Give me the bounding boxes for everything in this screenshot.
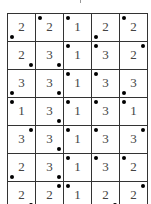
- grid-row: 23132: [8, 42, 148, 70]
- cell-number: 3: [92, 76, 119, 90]
- cell-number: 2: [8, 20, 35, 34]
- corner-dot-icon: [57, 63, 61, 67]
- corner-dot-icon: [10, 175, 14, 179]
- cell-number: 1: [64, 20, 91, 34]
- grid-row: 33133: [8, 70, 148, 98]
- grid-cell: 2: [36, 182, 64, 204]
- grid-cell: 2: [8, 154, 36, 182]
- corner-dot-icon: [113, 203, 117, 204]
- corner-dot-icon: [66, 44, 70, 48]
- grid-cell: 2: [92, 182, 120, 204]
- grid-cell: 3: [36, 42, 64, 70]
- top-tick-mark: [80, 0, 81, 3]
- corner-dot-icon: [141, 184, 145, 188]
- corner-dot-icon: [66, 184, 70, 188]
- cell-number: 3: [36, 104, 63, 118]
- corner-dot-icon: [94, 44, 98, 48]
- cell-number: 1: [64, 160, 91, 174]
- grid-cell: 1: [64, 70, 92, 98]
- cell-number: 1: [64, 188, 91, 202]
- grid-cell: 2: [8, 14, 36, 42]
- grid-cell: 3: [120, 126, 148, 154]
- grid-cell: 1: [64, 42, 92, 70]
- grid-cell: 3: [36, 154, 64, 182]
- corner-dot-icon: [141, 128, 145, 132]
- grid-cell: 2: [8, 182, 36, 204]
- corner-dot-icon: [66, 156, 70, 160]
- grid-cell: 3: [92, 154, 120, 182]
- cell-number: 2: [120, 160, 147, 174]
- cell-number: 3: [36, 48, 63, 62]
- cell-number: 2: [120, 48, 147, 62]
- grid-cell: 3: [92, 42, 120, 70]
- grid-cell: 1: [120, 98, 148, 126]
- grid-cell: 1: [64, 126, 92, 154]
- grid-cell: 3: [92, 98, 120, 126]
- grid-cell: 3: [36, 98, 64, 126]
- grid-cell: 3: [8, 70, 36, 98]
- corner-dot-icon: [66, 16, 70, 20]
- corner-dot-icon: [94, 156, 98, 160]
- grid-cell: 1: [8, 98, 36, 126]
- corner-dot-icon: [94, 100, 98, 104]
- corner-dot-icon: [57, 119, 61, 123]
- cell-number: 1: [8, 104, 35, 118]
- corner-dot-icon: [141, 44, 145, 48]
- cell-number: 3: [36, 76, 63, 90]
- cell-number: 1: [64, 48, 91, 62]
- cell-number: 2: [36, 188, 63, 202]
- cell-number: 3: [120, 132, 147, 146]
- cell-number: 2: [8, 160, 35, 174]
- grid-cell: 2: [36, 14, 64, 42]
- corner-dot-icon: [94, 72, 98, 76]
- corner-dot-icon: [29, 203, 33, 204]
- cell-number: 2: [36, 20, 63, 34]
- cell-number: 2: [120, 20, 147, 34]
- cell-number: 2: [92, 188, 119, 202]
- grid-cell: 3: [8, 126, 36, 154]
- grid-cell: 2: [120, 42, 148, 70]
- corner-dot-icon: [38, 16, 42, 20]
- cell-number: 3: [92, 160, 119, 174]
- corner-dot-icon: [66, 72, 70, 76]
- cell-number: 3: [8, 76, 35, 90]
- corner-dot-icon: [10, 100, 14, 104]
- cell-number: 2: [8, 48, 35, 62]
- corner-dot-icon: [57, 147, 61, 151]
- grid-cell: 2: [120, 14, 148, 42]
- corner-dot-icon: [122, 100, 126, 104]
- cell-number: 3: [92, 104, 119, 118]
- cell-number: 1: [64, 132, 91, 146]
- grid-cell: 2: [120, 154, 148, 182]
- cell-number: 3: [36, 160, 63, 174]
- grid-cell: 3: [36, 126, 64, 154]
- corner-dot-icon: [10, 35, 14, 39]
- grid-cell: 3: [92, 70, 120, 98]
- grid-cell: 3: [120, 70, 148, 98]
- cell-number: 1: [64, 76, 91, 90]
- corner-dot-icon: [122, 156, 126, 160]
- corner-dot-icon: [57, 91, 61, 95]
- corner-dot-icon: [94, 35, 98, 39]
- grid-cell: 3: [36, 70, 64, 98]
- grid-cell: 1: [64, 14, 92, 42]
- corner-dot-icon: [122, 16, 126, 20]
- corner-dot-icon: [122, 91, 126, 95]
- cell-number: 3: [92, 132, 119, 146]
- cell-number: 1: [64, 104, 91, 118]
- grid-cell: 2: [8, 42, 36, 70]
- grid-cell: 3: [92, 126, 120, 154]
- cell-number: 3: [92, 48, 119, 62]
- corner-dot-icon: [29, 63, 33, 67]
- grid-row: 22122: [8, 182, 148, 204]
- grid-cell: 1: [64, 182, 92, 204]
- corner-dot-icon: [94, 128, 98, 132]
- cell-number: 1: [120, 104, 147, 118]
- number-grid: 22122231323313313131331332313222122: [7, 13, 148, 204]
- grid-row: 23132: [8, 154, 148, 182]
- cell-number: 2: [8, 188, 35, 202]
- corner-dot-icon: [57, 175, 61, 179]
- cell-number: 3: [120, 76, 147, 90]
- corner-dot-icon: [57, 184, 61, 188]
- grid-cell: 1: [64, 98, 92, 126]
